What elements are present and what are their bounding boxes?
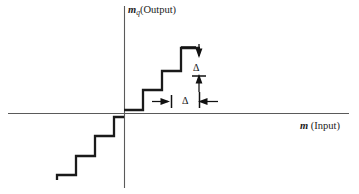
x-axis-paren: (Input): [311, 120, 340, 131]
delta-horizontal-label: Δ: [182, 96, 188, 106]
y-axis-paren: (Output): [140, 4, 176, 15]
delta-vertical-label: Δ: [193, 63, 199, 73]
x-axis-label: m (Input): [300, 121, 340, 132]
quantizer-characteristic-figure: mq(Output) m (Input) Δ Δ: [0, 0, 359, 194]
axes-group: [8, 6, 349, 188]
staircase-lower-left: [57, 117, 124, 180]
x-axis-symbol: m: [300, 120, 308, 131]
delta-horizontal-left-arrowhead: [161, 98, 171, 105]
delta-vertical-upper-arrowhead: [196, 49, 203, 59]
quantizer-plot-canvas: [0, 0, 359, 194]
y-axis-symbol: m: [128, 4, 136, 15]
y-axis-label: mq(Output): [128, 5, 176, 16]
